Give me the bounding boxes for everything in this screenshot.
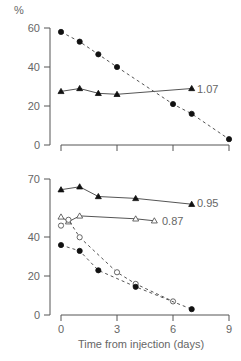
- bottom-x-axis: 0 3 6 9 Time from injection (days): [58, 315, 232, 350]
- filled-circle-marker: [114, 64, 119, 69]
- series-line: [61, 220, 173, 302]
- filled-circle-marker: [77, 248, 82, 253]
- top-y-axis: 60 40 20 0: [28, 22, 50, 151]
- bottom-y-axis: 70 40 20 0: [28, 173, 50, 321]
- bottom-ytick-20: 20: [28, 270, 40, 282]
- top-ytick-40: 40: [28, 61, 40, 73]
- filled-circle-marker: [96, 52, 101, 57]
- y-unit-label: %: [14, 4, 24, 16]
- xtick-0: 0: [58, 323, 64, 335]
- top-annotation-1-07: 1.07: [197, 83, 218, 95]
- filled-triangle-marker: [95, 193, 101, 198]
- top-x-axis: [61, 145, 229, 151]
- bottom-annotation-0-95: 0.95: [197, 197, 218, 209]
- top-ytick-60: 60: [28, 22, 40, 34]
- bottom-ytick-0: 0: [34, 309, 40, 321]
- top-ytick-0: 0: [34, 139, 40, 151]
- filled-triangle-marker: [189, 85, 195, 90]
- filled-circle-marker: [58, 29, 63, 34]
- series-line: [61, 216, 154, 222]
- filled-circle-marker: [189, 111, 194, 116]
- top-ytick-20: 20: [28, 100, 40, 112]
- series-line: [61, 187, 192, 204]
- filled-circle-marker: [133, 284, 138, 289]
- open-circle-marker: [66, 217, 71, 222]
- bottom-plot-area: [58, 184, 195, 312]
- filled-circle-marker: [226, 137, 231, 142]
- filled-circle-marker: [96, 268, 101, 273]
- bottom-ytick-40: 40: [28, 231, 40, 243]
- open-circle-marker: [77, 235, 82, 240]
- bottom-annotation-0-87: 0.87: [162, 215, 183, 227]
- xtick-9: 9: [226, 323, 232, 335]
- filled-circle-marker: [189, 307, 194, 312]
- filled-triangle-marker: [77, 85, 83, 90]
- xtick-6: 6: [170, 323, 176, 335]
- filled-triangle-marker: [77, 184, 83, 189]
- open-circle-marker: [58, 223, 63, 228]
- filled-circle-marker: [58, 242, 63, 247]
- open-triangle-marker: [58, 214, 64, 219]
- xtick-3: 3: [114, 323, 120, 335]
- x-axis-title: Time from injection (days): [78, 338, 204, 350]
- filled-circle-marker: [170, 101, 175, 106]
- bottom-ytick-70: 70: [28, 173, 40, 185]
- open-circle-marker: [114, 270, 119, 275]
- filled-circle-marker: [77, 39, 82, 44]
- chart-figure: % 60 40 20 0 1.07 70 40 20 0 0: [0, 0, 241, 361]
